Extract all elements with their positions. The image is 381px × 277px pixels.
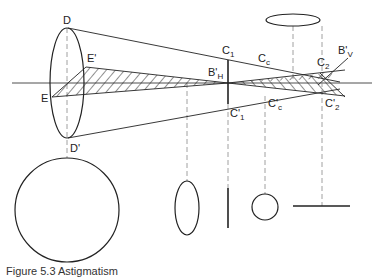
- label-C2-prime: C'2: [325, 97, 340, 112]
- label-D-prime: D': [70, 142, 80, 154]
- lower-marginal-ray: [68, 89, 340, 138]
- label-Cc-prime: C'c: [268, 97, 282, 112]
- label-E: E: [41, 92, 48, 104]
- cross-section-circle-large: [15, 158, 119, 262]
- figure-caption: Figure 5.3 Astigmatism: [6, 265, 118, 277]
- label-C1-prime: C'1: [230, 107, 245, 122]
- cross-section-vertical-ellipse: [175, 181, 199, 235]
- label-BV: B'V: [338, 44, 353, 59]
- label-Cc: Cc: [258, 52, 270, 67]
- cross-section-circle-small: [252, 194, 278, 220]
- label-D: D: [63, 14, 71, 26]
- label-C1: C1: [222, 44, 235, 59]
- label-BH: B'H: [208, 66, 223, 81]
- label-C2: C2: [317, 56, 330, 71]
- label-E-prime: E': [87, 52, 96, 64]
- cross-section-horizontal-ellipse: [266, 14, 320, 26]
